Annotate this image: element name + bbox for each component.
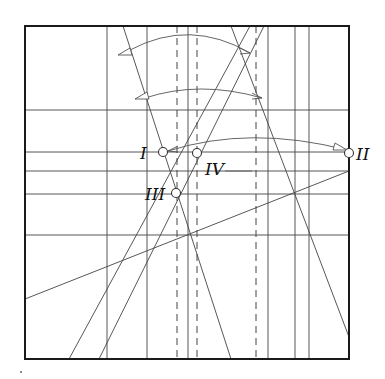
- fold-arrows: [118, 35, 347, 152]
- diagonal-crease-line: [99, 26, 264, 359]
- point-label-IV: IV: [204, 159, 226, 179]
- diagonal-crease-line: [231, 26, 349, 337]
- horizontal-creases: [25, 110, 349, 235]
- stray-mark: [20, 371, 22, 373]
- reference-point-II: [345, 149, 354, 158]
- arrow-tail-icon: [333, 143, 347, 150]
- point-label-II: II: [355, 144, 370, 164]
- point-label-I: I: [139, 143, 147, 163]
- arrow-tail-icon: [135, 92, 149, 99]
- paper-square-frame: [25, 26, 349, 359]
- reference-point-I: [159, 148, 168, 157]
- reference-point-IV: [193, 149, 202, 158]
- arrow-tail-icon: [118, 48, 132, 55]
- fold-arrow: [145, 89, 262, 98]
- fold-arrow: [130, 35, 250, 53]
- point-label-III: III: [144, 184, 165, 204]
- vertical-creases: [107, 26, 309, 359]
- reference-point-III: [172, 189, 181, 198]
- dashed-valley-creases: [177, 26, 256, 359]
- diagonal-creases: [25, 26, 349, 359]
- origami-crease-diagram: IIIIIIIV: [0, 0, 385, 379]
